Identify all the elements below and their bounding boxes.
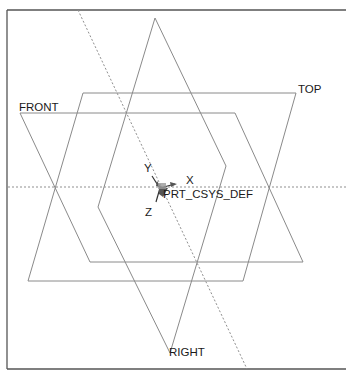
model-graphics-window[interactable]: FRONTTOPRIGHT Y X Z PRT_CSYS_DEF: [0, 0, 351, 371]
csys-name-label[interactable]: PRT_CSYS_DEF: [163, 188, 253, 200]
csys-y-label: Y: [144, 162, 152, 174]
csys-x-label: X: [186, 174, 194, 186]
csys-prt-csys-def[interactable]: Y X Z PRT_CSYS_DEF: [144, 162, 253, 218]
datum-plane-label[interactable]: TOP: [298, 83, 322, 95]
datum-plane-front[interactable]: FRONT: [19, 101, 303, 262]
datum-plane-label[interactable]: RIGHT: [169, 346, 205, 358]
csys-z-label: Z: [145, 206, 152, 218]
csys-x-arrowhead-icon: [170, 182, 177, 187]
model-canvas[interactable]: FRONTTOPRIGHT Y X Z PRT_CSYS_DEF: [0, 0, 351, 371]
datum-plane-label[interactable]: FRONT: [19, 101, 59, 113]
